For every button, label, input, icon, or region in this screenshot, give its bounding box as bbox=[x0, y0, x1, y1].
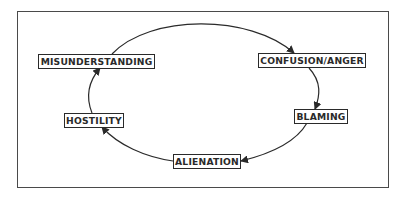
arrow-hostility-to-misunderstanding bbox=[89, 68, 100, 113]
cycle-arrows bbox=[0, 0, 407, 200]
cycle-diagram: MISUNDERSTANDING CONFUSION/ANGER BLAMING… bbox=[0, 0, 407, 200]
node-confusion-anger: CONFUSION/ANGER bbox=[258, 53, 366, 68]
arrow-misunderstanding-to-confusion bbox=[112, 24, 294, 54]
arrow-alienation-to-hostility bbox=[102, 127, 173, 161]
arrow-confusion-to-blaming bbox=[309, 68, 319, 109]
node-blaming: BLAMING bbox=[294, 109, 348, 124]
node-hostility: HOSTILITY bbox=[64, 113, 124, 128]
arrow-blaming-to-alienation bbox=[241, 123, 307, 161]
node-misunderstanding: MISUNDERSTANDING bbox=[38, 54, 155, 69]
node-alienation: ALIENATION bbox=[173, 154, 241, 169]
